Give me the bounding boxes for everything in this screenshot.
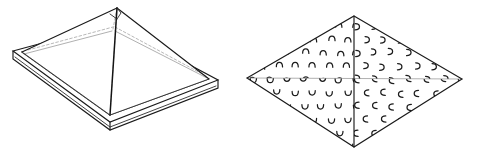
figure-canvas: Line drawing of a four-sided hip roof py… [0,0,478,153]
pyramid-figure-svg: Line drawing of a four-sided hip roof py… [0,0,478,153]
